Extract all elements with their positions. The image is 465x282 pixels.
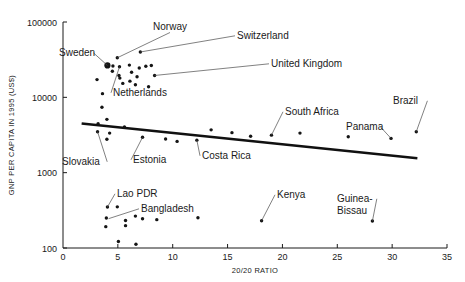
- x-tick-label: 0: [60, 252, 65, 262]
- annotation-leader-line: [271, 112, 283, 135]
- annotation-leader-line: [93, 53, 107, 66]
- data-point: [104, 225, 107, 228]
- data-point: [118, 76, 121, 79]
- data-point: [128, 79, 131, 82]
- annotation-label: Panama: [346, 121, 384, 132]
- data-point: [415, 130, 418, 133]
- data-point: [111, 70, 114, 73]
- data-point: [150, 64, 153, 67]
- annotation-label: Kenya: [277, 189, 306, 200]
- data-point: [141, 217, 144, 220]
- annotation-label: Brazil: [393, 95, 418, 106]
- data-points-group: [95, 50, 418, 246]
- data-point: [128, 63, 131, 66]
- annotation-label: Lao PDR: [117, 188, 158, 199]
- y-tick-label: 1000: [37, 168, 57, 178]
- x-tick-label: 25: [332, 252, 342, 262]
- data-point: [130, 71, 133, 74]
- data-point: [155, 218, 158, 221]
- y-axis-title: GNP PER CAPITA IN 1995 (US$): [7, 75, 16, 195]
- data-point: [134, 243, 137, 246]
- annotation-leader-line: [107, 194, 115, 207]
- annotation-label: Norway: [153, 21, 187, 32]
- data-point: [249, 134, 252, 137]
- data-point: [105, 138, 108, 141]
- annotation-label: Guinea-: [337, 193, 373, 204]
- annotation-label: Slovakia: [62, 156, 100, 167]
- x-tick-label: 35: [442, 252, 452, 262]
- x-axis-ticks: 05101520253035: [60, 244, 452, 262]
- chart-canvas: 05101520253035 100100010000100000 Norway…: [0, 0, 465, 282]
- x-tick-label: 5: [115, 252, 120, 262]
- data-point: [134, 83, 137, 86]
- x-axis-title: 20/20 RATIO: [232, 266, 279, 275]
- annotation-label: Netherlands: [113, 87, 167, 98]
- annotation-labels-group: NorwaySwitzerlandSwedenUnited KingdomNet…: [59, 21, 418, 216]
- annotation-leader-line: [117, 33, 170, 58]
- annotation-leader-line: [155, 64, 269, 76]
- data-point: [116, 205, 119, 208]
- scatter-chart-figure: 05101520253035 100100010000100000 Norway…: [0, 0, 465, 282]
- data-point: [108, 131, 111, 134]
- x-tick-label: 30: [387, 252, 397, 262]
- data-point: [298, 131, 301, 134]
- data-point: [175, 140, 178, 143]
- annotation-leader-line: [262, 195, 275, 221]
- data-point: [101, 92, 104, 95]
- data-point: [134, 214, 137, 217]
- y-tick-label: 10000: [32, 93, 57, 103]
- data-point: [95, 78, 98, 81]
- annotation-leader-line: [197, 140, 200, 156]
- data-point: [121, 82, 124, 85]
- x-tick-label: 20: [277, 252, 287, 262]
- annotation-label: Sweden: [59, 47, 95, 58]
- data-point: [111, 64, 114, 67]
- annotation-label: United Kingdom: [271, 58, 342, 69]
- data-point: [260, 219, 263, 222]
- data-point: [100, 105, 103, 108]
- annotation-label: Estonia: [133, 154, 167, 165]
- annotation-leader-line: [372, 199, 376, 221]
- data-point: [196, 216, 199, 219]
- data-point: [117, 240, 120, 243]
- data-point: [209, 128, 212, 131]
- annotation-label: South Africa: [285, 106, 339, 117]
- annotation-label: Bangladesh: [141, 203, 194, 214]
- annotation-label: Switzerland: [237, 30, 289, 41]
- data-point: [347, 135, 350, 138]
- y-tick-label: 100000: [27, 18, 57, 28]
- y-tick-label: 100: [42, 244, 57, 254]
- data-point: [164, 137, 167, 140]
- data-point: [105, 216, 108, 219]
- data-point: [135, 75, 138, 78]
- x-tick-label: 10: [168, 252, 178, 262]
- data-point: [138, 66, 141, 69]
- data-point: [124, 224, 127, 227]
- annotation-label: Costa Rica: [202, 150, 251, 161]
- data-point: [124, 219, 127, 222]
- annotation-label: Bissau: [337, 205, 367, 216]
- annotation-leader-line: [140, 36, 235, 52]
- data-point: [230, 131, 233, 134]
- x-tick-label: 15: [223, 252, 233, 262]
- data-point: [105, 118, 108, 121]
- data-point: [144, 65, 147, 68]
